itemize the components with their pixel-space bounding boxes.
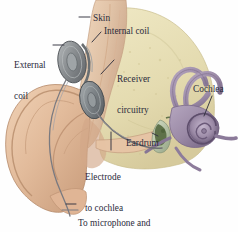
label-receiver-line1: Receiver [117,74,150,84]
label-eardrum: Eardrum [126,138,159,148]
label-electrode-line1: Electrode [85,172,123,182]
label-receiver-circuitry: Receiver circuitry [117,54,150,136]
cochlea-spiral [188,113,219,144]
label-external-coil-line1: External [14,60,46,70]
label-internal-coil: Internal coil [104,26,149,36]
label-skin: Skin [93,13,110,23]
label-external-coil-line2: coil [14,91,46,101]
cochlear-implant-figure: Skin Internal coil External coil Receive… [0,0,238,232]
label-microphone-line1: To microphone and [78,218,151,228]
external-coil-disc [55,39,92,88]
label-receiver-line2: circuitry [117,105,150,115]
label-cochlea: Cochlea [193,84,224,94]
label-to-microphone: To microphone and sound processor [78,198,151,232]
label-external-coil: External coil [14,40,46,122]
